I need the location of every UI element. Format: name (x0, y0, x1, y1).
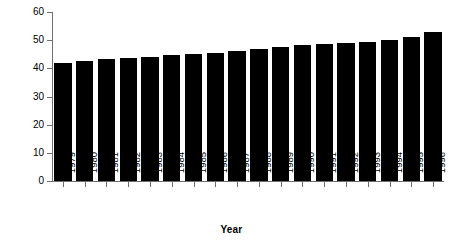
x-tick-label: 1981 (110, 152, 120, 186)
y-tick: 50 (47, 40, 53, 41)
x-tick-label: 1984 (176, 152, 186, 186)
x-tick-label: 1982 (132, 152, 142, 186)
y-tick: 0 (47, 181, 53, 182)
y-tick: 30 (47, 97, 53, 98)
x-tick-label: 1986 (219, 152, 229, 186)
x-tick-label: 1990 (306, 152, 316, 186)
x-tick-label: 1992 (350, 152, 360, 186)
x-tick-label: 1979 (67, 152, 77, 186)
x-axis-tick-labels: 1979198019811982198319841985198619871988… (52, 186, 444, 222)
x-axis-title: Year (0, 224, 463, 235)
y-tick: 40 (47, 68, 53, 69)
y-tick-label: 20 (22, 119, 44, 130)
x-tick-label: 1994 (394, 152, 404, 186)
x-tick-label: 1989 (285, 152, 295, 186)
y-tick-label: 0 (22, 175, 44, 186)
y-tick: 20 (47, 125, 53, 126)
x-tick-label: 1988 (263, 152, 273, 186)
x-tick-label: 1995 (415, 152, 425, 186)
x-tick-label: 1987 (241, 152, 251, 186)
y-tick: 10 (47, 153, 53, 154)
x-tick-label: 1983 (154, 152, 164, 186)
bar-chart: Per cent 0102030405060 19791980198119821… (0, 0, 463, 243)
y-tick-label: 60 (22, 6, 44, 17)
x-tick-label: 1980 (89, 152, 99, 186)
x-tick-label: 1993 (372, 152, 382, 186)
x-tick-label: 1985 (198, 152, 208, 186)
y-tick-label: 30 (22, 91, 44, 102)
y-tick: 60 (47, 12, 53, 13)
x-tick-label: 1991 (328, 152, 338, 186)
y-tick-label: 40 (22, 62, 44, 73)
y-tick-label: 50 (22, 34, 44, 45)
y-tick-label: 10 (22, 147, 44, 158)
x-tick-label: 1996 (437, 152, 447, 186)
